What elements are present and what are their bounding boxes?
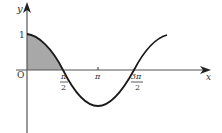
shaded-area [27, 34, 63, 70]
tick-pi: π [94, 72, 101, 81]
tick-three-pi-half-num: 3π [131, 72, 142, 81]
tick-pi-half-den: 2 [61, 83, 66, 92]
tick-three-pi-half-den: 2 [135, 83, 140, 92]
y-axis-label: y [16, 3, 23, 14]
origin-label: O [17, 70, 24, 80]
x-axis-label: x [206, 72, 211, 82]
tick-pi-half-num: π [60, 72, 67, 81]
cosine-graph: y x O 1 π 2 π 3π 2 [0, 0, 222, 133]
y-tick-one: 1 [19, 30, 25, 40]
